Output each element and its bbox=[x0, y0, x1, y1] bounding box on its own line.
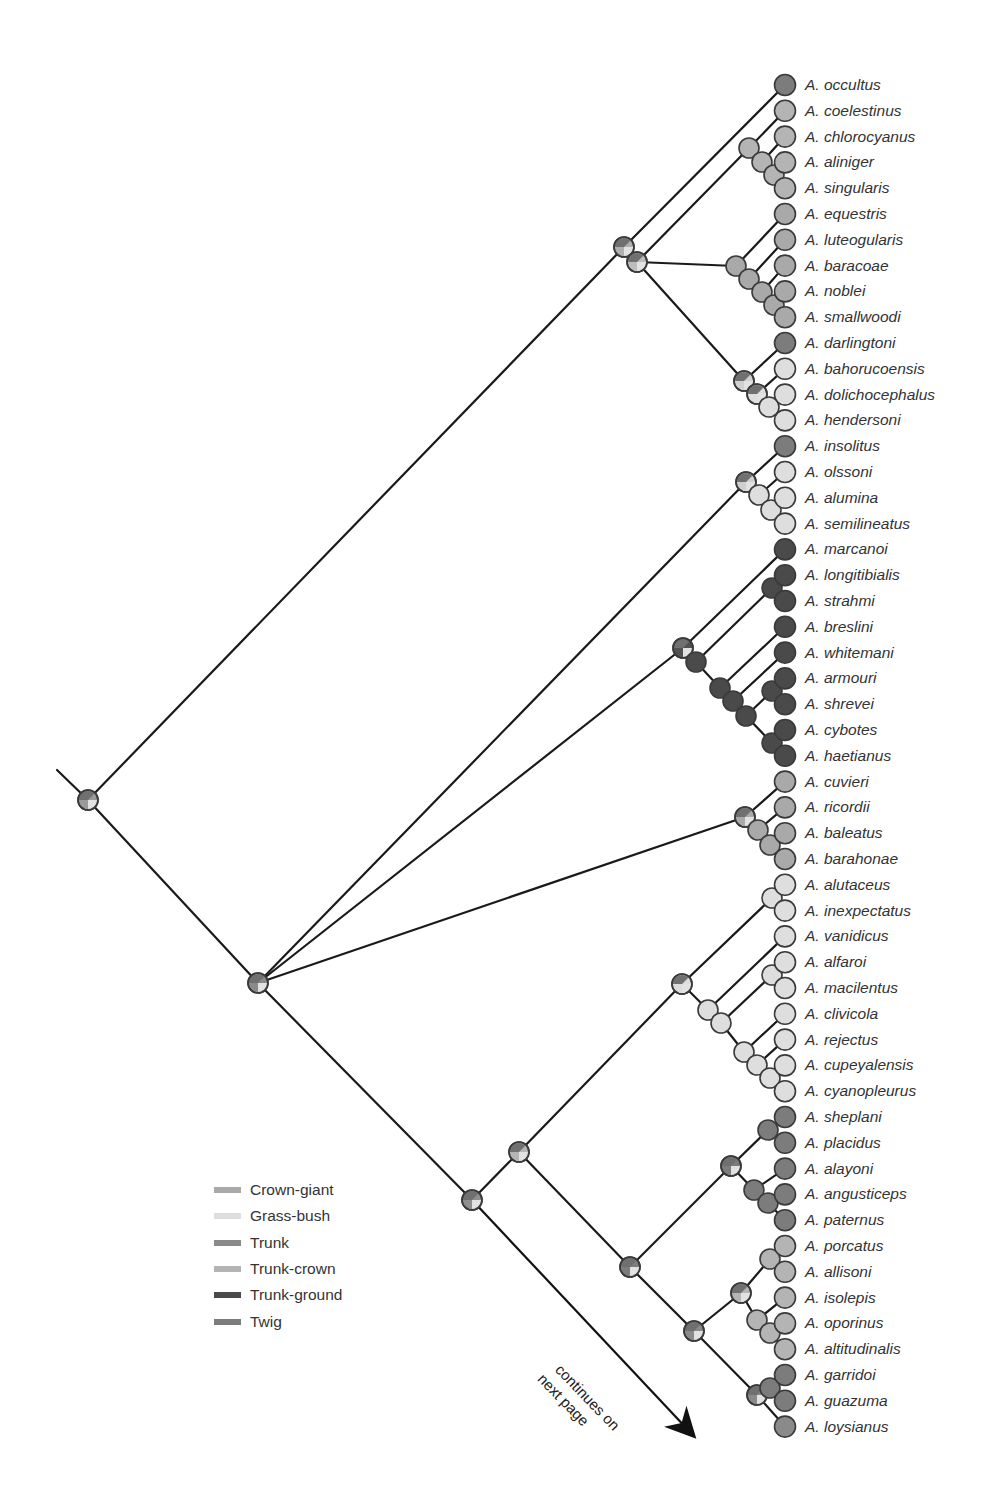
tip-label: A. paternus bbox=[805, 1211, 884, 1229]
trunk-swatch bbox=[214, 1240, 241, 1246]
tip-node bbox=[775, 926, 796, 947]
tip-node bbox=[775, 1261, 796, 1282]
legend-item-trunk-ground: Trunk-ground bbox=[214, 1282, 342, 1308]
legend-label: Trunk-ground bbox=[250, 1286, 342, 1304]
tip-label: A. clivicola bbox=[805, 1005, 878, 1023]
tip-label: A. darlingtoni bbox=[805, 334, 895, 352]
tip-label: A. luteogularis bbox=[805, 231, 903, 249]
tip-label: A. loysianus bbox=[805, 1418, 889, 1436]
tip-node bbox=[775, 255, 796, 276]
tip-node bbox=[775, 1055, 796, 1076]
tip-label: A. baracoae bbox=[805, 257, 889, 275]
tip-node bbox=[775, 333, 796, 354]
crown-giant-swatch bbox=[214, 1187, 241, 1193]
tip-label: A. singularis bbox=[805, 179, 889, 197]
tip-node bbox=[775, 126, 796, 147]
tip-node bbox=[775, 952, 796, 973]
tip-label: A. smallwoodi bbox=[805, 308, 901, 326]
tree-branches bbox=[57, 85, 785, 1427]
tip-label: A. breslini bbox=[805, 618, 873, 636]
internal-node bbox=[758, 1120, 778, 1140]
branch bbox=[519, 984, 682, 1152]
tip-node bbox=[775, 307, 796, 328]
grass-bush-swatch bbox=[214, 1213, 241, 1219]
branch bbox=[519, 1152, 630, 1267]
tip-label: A. occultus bbox=[805, 76, 881, 94]
tip-node bbox=[775, 358, 796, 379]
tip-label: A. chlorocyanus bbox=[805, 128, 915, 146]
legend-label: Twig bbox=[250, 1313, 282, 1331]
tip-node bbox=[775, 1287, 796, 1308]
tip-node bbox=[775, 178, 796, 199]
tip-label: A. garridoi bbox=[805, 1366, 876, 1384]
tip-label: A. haetianus bbox=[805, 747, 891, 765]
tip-label: A. dolichocephalus bbox=[805, 386, 935, 404]
tip-node bbox=[775, 1003, 796, 1024]
branch bbox=[637, 262, 736, 266]
twig-swatch bbox=[214, 1319, 241, 1325]
tip-node bbox=[775, 874, 796, 895]
tip-label: A. insolitus bbox=[805, 437, 880, 455]
tip-node bbox=[775, 1081, 796, 1102]
tip-node bbox=[775, 1390, 796, 1411]
tip-label: A. shrevei bbox=[805, 695, 874, 713]
tip-label: A. alumina bbox=[805, 489, 878, 507]
tip-node bbox=[775, 849, 796, 870]
tip-node bbox=[775, 384, 796, 405]
tip-node bbox=[775, 565, 796, 586]
tip-node bbox=[775, 668, 796, 689]
tip-label: A. coelestinus bbox=[805, 102, 902, 120]
tip-node bbox=[775, 539, 796, 560]
tip-label: A. cupeyalensis bbox=[805, 1056, 914, 1074]
tip-node bbox=[775, 1029, 796, 1050]
legend-label: Trunk-crown bbox=[250, 1260, 336, 1278]
tip-node bbox=[775, 229, 796, 250]
tip-label: A. aliniger bbox=[805, 153, 874, 171]
tip-label: A. rejectus bbox=[805, 1031, 878, 1049]
tip-label: A. hendersoni bbox=[805, 411, 901, 429]
branch bbox=[258, 648, 683, 983]
tip-node bbox=[775, 642, 796, 663]
trunk-crown-swatch bbox=[214, 1266, 241, 1272]
tree-nodes bbox=[78, 75, 796, 1438]
tip-node bbox=[775, 1365, 796, 1386]
tip-label: A. longitibialis bbox=[805, 566, 900, 584]
legend-item-twig: Twig bbox=[214, 1308, 342, 1334]
tip-label: A. alayoni bbox=[805, 1160, 873, 1178]
legend-item-trunk-crown: Trunk-crown bbox=[214, 1256, 342, 1282]
branch bbox=[683, 549, 785, 648]
tip-node bbox=[775, 1210, 796, 1231]
tip-label: A. barahonae bbox=[805, 850, 898, 868]
tip-label: A. angusticeps bbox=[805, 1185, 907, 1203]
tip-node bbox=[775, 513, 796, 534]
tip-node bbox=[775, 1313, 796, 1334]
tip-node bbox=[775, 1416, 796, 1437]
tip-node bbox=[775, 410, 796, 431]
branch bbox=[258, 817, 745, 983]
tip-label: A. equestris bbox=[805, 205, 887, 223]
branch bbox=[694, 1331, 757, 1395]
tip-label: A. ricordii bbox=[805, 798, 870, 816]
tip-label: A. baleatus bbox=[805, 824, 883, 842]
tip-node bbox=[775, 1158, 796, 1179]
tip-node bbox=[775, 823, 796, 844]
tip-label: A. cuvieri bbox=[805, 773, 869, 791]
tip-node bbox=[775, 694, 796, 715]
trunk-ground-swatch bbox=[214, 1292, 241, 1298]
tip-node bbox=[775, 436, 796, 457]
legend-label: Grass-bush bbox=[250, 1207, 330, 1225]
tip-node bbox=[775, 616, 796, 637]
internal-node bbox=[736, 706, 756, 726]
tip-label: A. macilentus bbox=[805, 979, 898, 997]
tip-node bbox=[775, 1107, 796, 1128]
tip-label: A. altitudinalis bbox=[805, 1340, 901, 1358]
tip-node bbox=[775, 797, 796, 818]
tip-node bbox=[775, 1236, 796, 1257]
tip-node bbox=[775, 745, 796, 766]
tip-label: A. alutaceus bbox=[805, 876, 890, 894]
branch bbox=[258, 983, 472, 1200]
legend-label: Trunk bbox=[250, 1234, 289, 1252]
tip-node bbox=[775, 204, 796, 225]
tip-label: A. sheplani bbox=[805, 1108, 882, 1126]
legend-item-trunk: Trunk bbox=[214, 1230, 342, 1256]
